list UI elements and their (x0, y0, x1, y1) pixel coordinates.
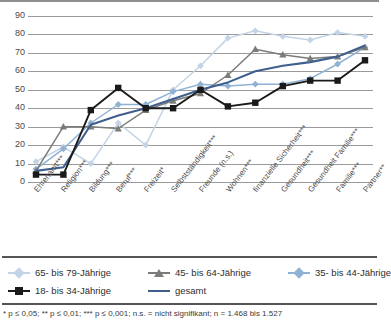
x-axis-labels: Ehrenamt***Religion***Bildung***Beruf***… (0, 183, 379, 249)
data-point (252, 46, 259, 53)
data-point (143, 105, 149, 111)
data-point (334, 61, 341, 68)
legend-item[interactable]: 18- bis 34-Jährige (8, 284, 111, 298)
y-tick-label: 10 (15, 159, 25, 168)
legend-label: 45- bis 64-Jährige (175, 268, 251, 278)
data-point (279, 33, 286, 40)
y-tick-label: 60 (15, 66, 25, 75)
data-point (33, 171, 39, 177)
series-line (36, 31, 365, 164)
y-tick-label: 70 (15, 48, 25, 57)
legend-item[interactable]: 65- bis 79-Jährige (8, 266, 111, 280)
y-tick-label: 30 (15, 122, 25, 131)
data-point (252, 81, 259, 88)
data-point (115, 85, 121, 91)
data-point (280, 83, 286, 89)
legend-marker-icon (8, 267, 30, 279)
legend-marker-icon (8, 285, 30, 297)
legend-top-rule (2, 256, 377, 258)
data-point (170, 105, 176, 111)
y-tick-label: 90 (15, 11, 25, 20)
legend-marker-icon (148, 285, 170, 297)
data-point (334, 29, 341, 36)
legend-label: 18- bis 34-Jährige (35, 286, 111, 296)
data-point (334, 77, 340, 83)
legend-bottom-rule (2, 303, 377, 305)
chart-legend: 65- bis 79-Jährige45- bis 64-Jährige35- … (0, 256, 379, 305)
legend-label: 65- bis 79-Jährige (35, 268, 111, 278)
legend-label: 35- bis 44-Jährige (315, 268, 391, 278)
data-point (307, 77, 313, 83)
data-point (197, 87, 203, 93)
legend-item[interactable]: gesamt (148, 284, 206, 298)
data-point (252, 100, 258, 106)
legend-item[interactable]: 45- bis 64-Jährige (148, 266, 251, 280)
y-tick-label: 20 (15, 140, 25, 149)
data-point (362, 57, 368, 63)
data-point (197, 81, 204, 88)
data-point (88, 107, 94, 113)
data-point (307, 37, 314, 44)
series-1 (33, 27, 369, 167)
data-point (60, 171, 66, 177)
data-point (33, 158, 40, 165)
legend-label: gesamt (175, 286, 206, 296)
y-axis: 0102030405060708090 (0, 0, 28, 190)
legend-item[interactable]: 35- bis 44-Jährige (288, 266, 391, 280)
legend-marker-icon (288, 267, 310, 279)
data-point (252, 27, 259, 34)
footnote-text: * p ≤ 0,05; ** p ≤ 0,01; *** p ≤ 0,001; … (3, 309, 377, 318)
y-tick-label: 80 (15, 29, 25, 38)
data-point (225, 103, 231, 109)
data-point (362, 33, 369, 40)
y-tick-label: 50 (15, 85, 25, 94)
legend-marker-icon (148, 267, 170, 279)
y-tick-label: 40 (15, 103, 25, 112)
